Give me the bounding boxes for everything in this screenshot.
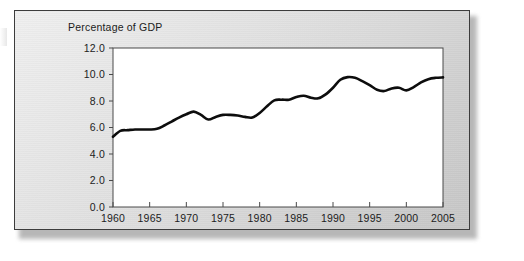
plot-svg: 0.02.04.06.08.010.012.0 1960196519701975… <box>0 0 524 261</box>
x-axis-tick-label: 1995 <box>358 212 382 224</box>
x-axis-tick-label: 1985 <box>284 212 308 224</box>
x-axis-tick-label: 1975 <box>211 212 235 224</box>
x-axis-tick-label: 1965 <box>138 212 162 224</box>
y-axis-tick-label: 4.0 <box>90 148 105 160</box>
figure-root: Percentage of GDP 0.02.04.06.08.010.012.… <box>0 0 524 261</box>
y-axis-tick-label: 12.0 <box>84 42 105 54</box>
x-axis-tick-label: 1970 <box>174 212 198 224</box>
x-axis-tick-label: 2005 <box>431 212 455 224</box>
y-axis-tick-labels: 0.02.04.06.08.010.012.0 <box>84 42 113 213</box>
x-axis-tick-label: 1960 <box>101 212 125 224</box>
x-axis-tick-label: 1990 <box>321 212 345 224</box>
y-axis-tick-label: 2.0 <box>90 174 105 186</box>
y-axis-tick-label: 0.0 <box>90 201 105 213</box>
y-axis-tick-label: 8.0 <box>90 95 105 107</box>
x-axis-tick-label: 2000 <box>394 212 418 224</box>
y-axis-tick-label: 10.0 <box>84 68 105 80</box>
y-axis-tick-label: 6.0 <box>90 121 105 133</box>
x-axis-tick-label: 1980 <box>248 212 272 224</box>
